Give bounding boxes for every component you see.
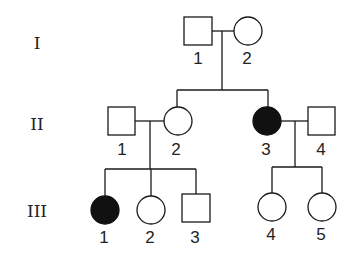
- individual-I-1-male: [184, 17, 212, 45]
- individual-label-II-3: 3: [261, 140, 270, 159]
- generation-label-1: I: [34, 33, 41, 53]
- individual-label-III-2: 2: [145, 228, 154, 247]
- individual-III-5-female: [308, 193, 336, 221]
- individual-label-III-1: 1: [99, 228, 108, 247]
- generation-label-3: III: [27, 201, 47, 221]
- individual-II-3-female-affected: [253, 107, 281, 135]
- pedigree-chart: I II III 1 2 1 2 3 4 1 2 3 4: [0, 0, 352, 254]
- individual-III-3-male: [182, 194, 210, 222]
- individual-label-II-1: 1: [117, 140, 126, 159]
- individual-III-1-female-affected: [91, 196, 119, 224]
- individual-II-2-female: [164, 107, 192, 135]
- individual-label-II-2: 2: [171, 140, 180, 159]
- individual-label-I-1: 1: [193, 49, 202, 68]
- individual-II-4-male: [308, 107, 335, 135]
- individual-label-III-5: 5: [316, 225, 325, 244]
- individual-label-III-4: 4: [266, 225, 275, 244]
- individual-label-I-2: 2: [242, 49, 251, 68]
- individual-label-II-4: 4: [316, 140, 325, 159]
- generation-label-2: II: [30, 114, 43, 134]
- individual-I-2-female: [234, 17, 262, 45]
- individual-III-4-female: [258, 193, 286, 221]
- individual-III-2-female: [137, 196, 165, 224]
- individual-II-1-male: [108, 107, 135, 135]
- individual-label-III-3: 3: [190, 228, 199, 247]
